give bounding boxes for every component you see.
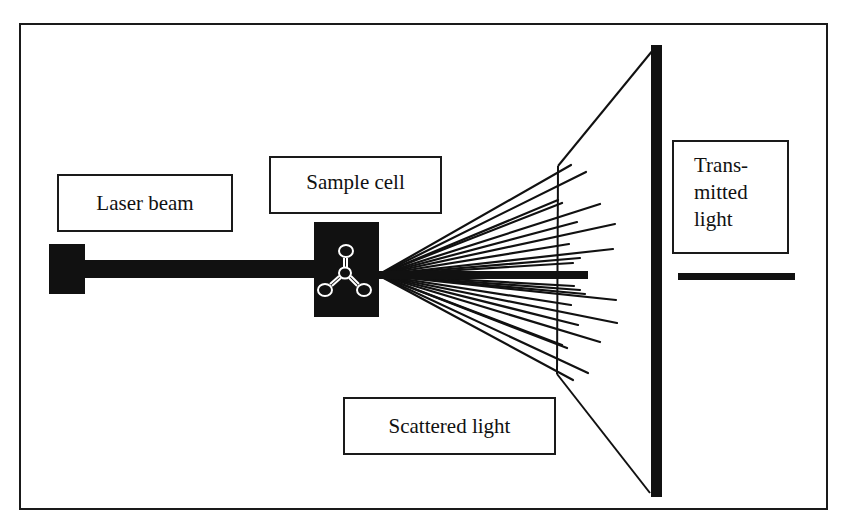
detector-screen	[651, 45, 662, 497]
transmitted-light-line-2: mitted	[694, 179, 748, 206]
transmitted-light-label: Trans- mitted light	[672, 140, 789, 254]
sample-cell-label-text: Sample cell	[306, 172, 405, 193]
laser-source	[49, 244, 85, 294]
laser-beam-bar	[85, 260, 317, 278]
laser-beam-label: Laser beam	[57, 174, 233, 232]
laser-beam-label-text: Laser beam	[96, 193, 193, 214]
sample-cell	[314, 222, 379, 317]
scattered-light-label: Scattered light	[343, 397, 556, 455]
transmitted-light-line-3: light	[694, 206, 733, 233]
transmitted-beam-bar	[678, 273, 795, 280]
scattered-light-label-text: Scattered light	[389, 416, 511, 437]
transmitted-light-line-1: Trans-	[694, 152, 748, 179]
sample-cell-label: Sample cell	[269, 156, 442, 214]
